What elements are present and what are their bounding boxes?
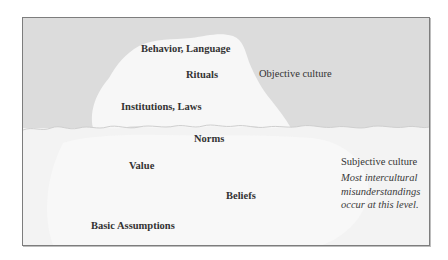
iceberg-diagram: Behavior, Language Rituals Institutions,…	[22, 17, 430, 246]
subjective-culture-note: Most intercultural misunderstandings occ…	[341, 171, 417, 212]
layer-label-institutions-laws: Institutions, Laws	[121, 101, 202, 113]
layer-label-norms: Norms	[194, 133, 224, 145]
objective-culture-label: Objective culture	[259, 68, 332, 80]
layer-label-value: Value	[129, 160, 154, 172]
layer-label-behavior-language: Behavior, Language	[141, 43, 230, 55]
layer-label-beliefs: Beliefs	[226, 190, 256, 202]
note-line: occur at this level.	[341, 198, 417, 212]
note-line: Most intercultural	[341, 171, 417, 185]
layer-label-basic-assumptions: Basic Assumptions	[91, 220, 175, 232]
subjective-culture-label: Subjective culture	[341, 156, 417, 168]
note-line: misunderstandings	[341, 185, 417, 199]
layer-label-rituals: Rituals	[186, 69, 218, 81]
